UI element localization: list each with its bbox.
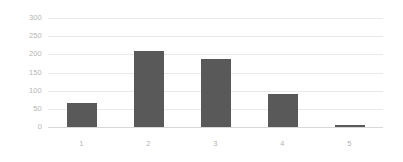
y-axis-tick-labels: 050100150200250300 <box>0 18 42 127</box>
y-axis-tick-label: 250 <box>29 32 42 40</box>
bar-slot <box>48 18 115 127</box>
x-axis-tick-label: 5 <box>347 139 351 148</box>
bar-slot <box>249 18 316 127</box>
gridline <box>48 127 383 128</box>
y-axis-tick-label: 0 <box>38 123 42 131</box>
y-axis-tick-label: 300 <box>29 14 42 22</box>
y-axis-tick-label: 200 <box>29 51 42 59</box>
y-axis-tick-label: 50 <box>33 105 42 113</box>
y-axis-tick-label: 100 <box>29 87 42 95</box>
bar-slot <box>316 18 383 127</box>
bar-chart: 050100150200250300 12345 <box>0 0 403 162</box>
x-label-slot: 2 <box>115 132 182 150</box>
x-axis-tick-label: 4 <box>280 139 284 148</box>
plot-area <box>48 18 383 127</box>
bar-slot <box>115 18 182 127</box>
bar-series <box>48 18 383 127</box>
bar[interactable] <box>201 59 231 127</box>
x-label-slot: 4 <box>249 132 316 150</box>
x-axis-tick-label: 1 <box>79 139 83 148</box>
bar[interactable] <box>67 103 97 127</box>
bar[interactable] <box>134 51 164 127</box>
x-axis-tick-labels: 12345 <box>48 132 383 150</box>
x-label-slot: 5 <box>316 132 383 150</box>
y-axis-tick-label: 150 <box>29 69 42 77</box>
bar[interactable] <box>335 125 365 127</box>
bar-slot <box>182 18 249 127</box>
x-axis-tick-label: 3 <box>213 139 217 148</box>
x-label-slot: 3 <box>182 132 249 150</box>
x-label-slot: 1 <box>48 132 115 150</box>
bar[interactable] <box>268 94 298 127</box>
x-axis-tick-label: 2 <box>146 139 150 148</box>
